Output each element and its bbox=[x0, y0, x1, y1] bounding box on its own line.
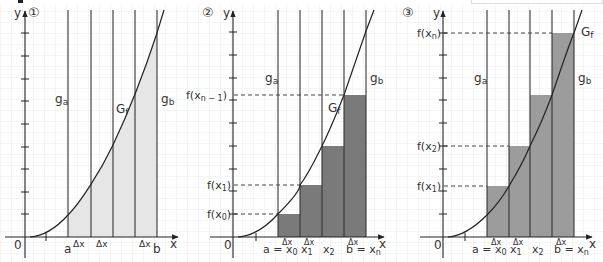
panel-number: ① bbox=[28, 5, 40, 20]
origin-label: 0 bbox=[14, 238, 22, 252]
top-mark bbox=[18, 0, 23, 3]
x-axis-label: x bbox=[170, 237, 177, 251]
dx-label: Δx bbox=[556, 238, 566, 247]
dx-label: Δx bbox=[139, 239, 151, 249]
y-axis-label: y bbox=[14, 6, 21, 20]
panel-number: ② bbox=[202, 5, 214, 20]
dx-label: Δx bbox=[491, 238, 501, 247]
y-label-f-x1: f(x1) bbox=[417, 180, 441, 194]
dx-label: Δx bbox=[348, 238, 358, 247]
dx-label: Δx bbox=[282, 238, 292, 247]
y-label-f-xn: f(xn) bbox=[417, 27, 441, 41]
y-label-f-x0: f(x0) bbox=[207, 208, 231, 222]
origin-label: 0 bbox=[224, 238, 232, 252]
x-label-a-x0: a = x0 bbox=[472, 243, 507, 257]
dx-label: Δx bbox=[304, 238, 314, 247]
dx-label: Δx bbox=[73, 239, 85, 249]
panel-number: ③ bbox=[402, 5, 414, 20]
x-axis-label: x bbox=[589, 237, 596, 251]
y-label-f-x1: f(x1) bbox=[207, 179, 231, 193]
origin-label: 0 bbox=[434, 238, 442, 252]
b-label: b bbox=[153, 242, 161, 256]
y-label-f-x2: f(x2) bbox=[417, 140, 441, 154]
a-label: a bbox=[64, 242, 71, 256]
y-axis-label: y bbox=[223, 6, 230, 20]
y-axis-label: y bbox=[433, 6, 440, 20]
dx-label: Δx bbox=[513, 238, 523, 247]
riemann-sum-figure: y ① 0 x ga gb Gf a b Δx Δx Δx bbox=[0, 0, 603, 262]
dx-label: Δx bbox=[96, 239, 108, 249]
x-label-a-x0: a = x0 bbox=[263, 243, 298, 257]
